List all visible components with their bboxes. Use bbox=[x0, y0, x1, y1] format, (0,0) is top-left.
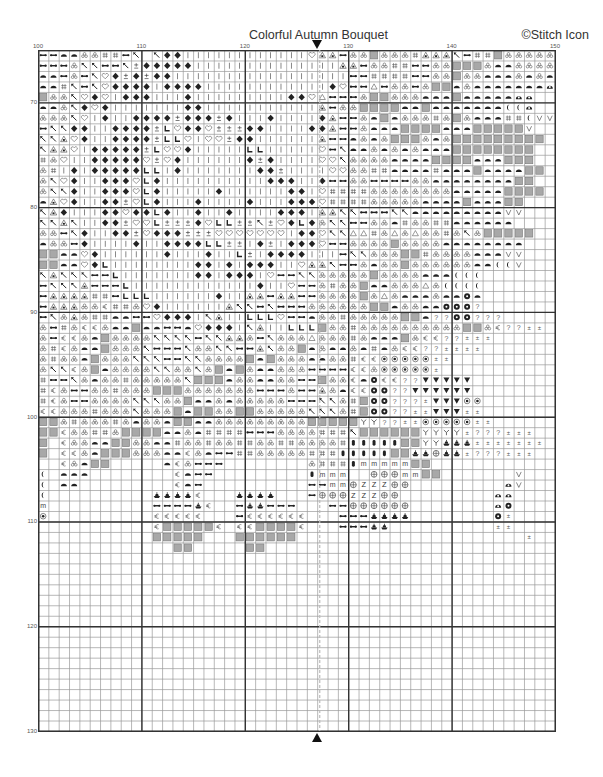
svg-text:±: ± bbox=[476, 409, 480, 415]
svg-text:Z: Z bbox=[361, 491, 366, 500]
svg-text:±: ± bbox=[465, 409, 469, 415]
svg-text:?: ? bbox=[393, 419, 397, 426]
row-label: 110 bbox=[20, 518, 37, 524]
column-label: 110 bbox=[137, 43, 147, 49]
svg-text:m: m bbox=[412, 471, 418, 478]
svg-text:±: ± bbox=[465, 346, 469, 352]
svg-text:±: ± bbox=[414, 419, 418, 425]
stitch-grid: ????????±±??±±±??±±±±±±±???????±??±±±±??… bbox=[38, 50, 556, 732]
svg-text:±: ± bbox=[424, 398, 428, 404]
svg-text:±: ± bbox=[465, 335, 469, 341]
row-label: 130 bbox=[20, 728, 37, 734]
svg-text:?: ? bbox=[496, 450, 500, 457]
svg-text:±: ± bbox=[496, 524, 500, 530]
svg-text:?: ? bbox=[382, 419, 386, 426]
svg-text:m: m bbox=[392, 460, 398, 467]
svg-text:?: ? bbox=[403, 398, 407, 405]
svg-text:±: ± bbox=[517, 440, 521, 446]
row-label: 90 bbox=[20, 309, 37, 315]
svg-text:?: ? bbox=[486, 314, 490, 321]
svg-text:±: ± bbox=[517, 430, 521, 436]
chart-title: Colorful Autumn Bouquet bbox=[0, 28, 603, 42]
svg-text:±: ± bbox=[496, 440, 500, 446]
svg-text:±: ± bbox=[424, 409, 428, 415]
svg-text:±: ± bbox=[486, 440, 490, 446]
svg-text:?: ? bbox=[475, 429, 479, 436]
svg-text:±: ± bbox=[528, 534, 532, 540]
svg-text:m: m bbox=[330, 481, 336, 488]
svg-text:?: ? bbox=[403, 387, 407, 394]
svg-text:?: ? bbox=[434, 314, 438, 321]
svg-text:?: ? bbox=[393, 387, 397, 394]
svg-text:±: ± bbox=[445, 346, 449, 352]
svg-text:?: ? bbox=[496, 314, 500, 321]
svg-text:m: m bbox=[361, 460, 367, 467]
svg-text:±: ± bbox=[507, 513, 511, 519]
svg-text:±: ± bbox=[538, 325, 542, 331]
column-label: 150 bbox=[550, 43, 560, 49]
svg-text:?: ? bbox=[403, 408, 407, 415]
svg-text:±: ± bbox=[507, 440, 511, 446]
svg-text:Z: Z bbox=[372, 480, 377, 489]
svg-text:m: m bbox=[402, 460, 408, 467]
row-label: 70 bbox=[20, 99, 37, 105]
svg-text:?: ? bbox=[507, 324, 511, 331]
svg-text:m: m bbox=[381, 460, 387, 467]
row-label: 100 bbox=[20, 414, 37, 420]
svg-text:m: m bbox=[330, 471, 336, 478]
svg-text:?: ? bbox=[413, 398, 417, 405]
svg-text:m: m bbox=[402, 471, 408, 478]
svg-text:?: ? bbox=[444, 335, 448, 342]
svg-text:±: ± bbox=[486, 335, 490, 341]
column-label: 120 bbox=[240, 43, 250, 49]
copyright-credit: ©Stitch Icon bbox=[521, 28, 589, 42]
svg-text:±: ± bbox=[403, 419, 407, 425]
svg-text:±: ± bbox=[528, 440, 532, 446]
svg-text:?: ? bbox=[486, 429, 490, 436]
column-label: 100 bbox=[33, 43, 43, 49]
svg-text:m: m bbox=[340, 481, 346, 488]
svg-text:?: ? bbox=[424, 345, 428, 352]
svg-text:?: ? bbox=[496, 429, 500, 436]
svg-text:?: ? bbox=[517, 324, 521, 331]
svg-text:±: ± bbox=[507, 524, 511, 530]
svg-text:±: ± bbox=[476, 440, 480, 446]
svg-text:?: ? bbox=[403, 377, 407, 384]
svg-text:?: ? bbox=[475, 314, 479, 321]
svg-text:±: ± bbox=[507, 451, 511, 457]
svg-text:±: ± bbox=[538, 440, 542, 446]
svg-text:?: ? bbox=[434, 345, 438, 352]
svg-text:Z: Z bbox=[382, 480, 387, 489]
svg-text:Z: Z bbox=[372, 491, 377, 500]
column-label: 130 bbox=[343, 43, 353, 49]
svg-text:±: ± bbox=[528, 325, 532, 331]
svg-text:?: ? bbox=[393, 408, 397, 415]
svg-text:Z: Z bbox=[361, 480, 366, 489]
svg-text:?: ? bbox=[475, 303, 479, 310]
svg-text:±: ± bbox=[507, 430, 511, 436]
svg-text:?: ? bbox=[413, 377, 417, 384]
center-marker-bottom-icon bbox=[312, 733, 322, 742]
svg-text:±: ± bbox=[434, 367, 438, 373]
svg-text:m: m bbox=[371, 460, 377, 467]
row-label: 80 bbox=[20, 204, 37, 210]
svg-text:Z: Z bbox=[351, 491, 356, 500]
svg-text:±: ± bbox=[445, 356, 449, 362]
svg-text:±: ± bbox=[528, 430, 532, 436]
svg-text:m: m bbox=[340, 471, 346, 478]
svg-text:?: ? bbox=[486, 450, 490, 457]
svg-text:m: m bbox=[40, 502, 46, 509]
svg-text:±: ± bbox=[517, 451, 521, 457]
svg-text:±: ± bbox=[414, 409, 418, 415]
center-marker-top-icon bbox=[312, 40, 322, 49]
svg-text:±: ± bbox=[528, 451, 532, 457]
svg-text:±: ± bbox=[486, 419, 490, 425]
svg-text:±: ± bbox=[476, 335, 480, 341]
svg-text:±: ± bbox=[476, 346, 480, 352]
svg-text:?: ? bbox=[444, 314, 448, 321]
svg-text:?: ? bbox=[455, 335, 459, 342]
svg-text:±: ± bbox=[465, 430, 469, 436]
svg-text:±: ± bbox=[455, 346, 459, 352]
svg-text:±: ± bbox=[465, 451, 469, 457]
svg-text:?: ? bbox=[475, 450, 479, 457]
